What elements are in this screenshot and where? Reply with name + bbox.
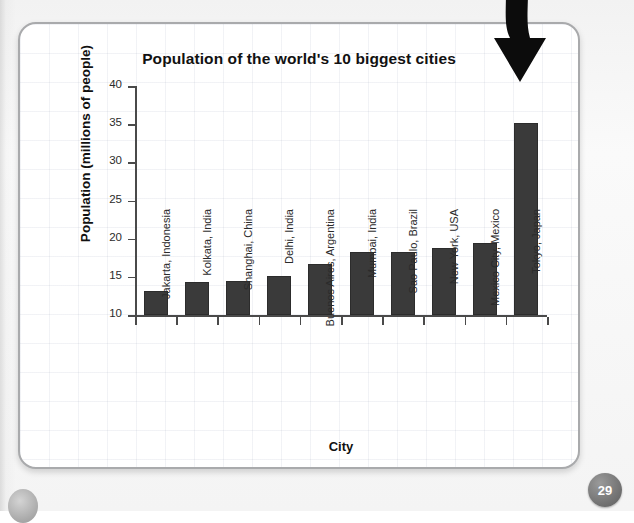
x-axis-tick-label: Delhi, India [283, 209, 295, 329]
y-axis-tick-label: 25 [109, 193, 122, 205]
x-axis-tick-mark [341, 317, 343, 325]
y-axis-tick-label: 15 [109, 269, 122, 281]
x-axis-tick-label: Kolkata, India [201, 209, 213, 329]
y-axis-tick-label: 40 [109, 78, 122, 90]
x-axis-tick-label: Buenos Aires, Argentina [324, 209, 336, 329]
plot-area [135, 86, 547, 315]
y-axis-tick-mark [128, 315, 135, 317]
x-axis-tick-label: New York, USA [448, 209, 460, 329]
x-axis-tick-label: Jakarta, Indonesia [160, 209, 172, 329]
x-axis-tick-label: Mumbai, India [366, 209, 378, 329]
y-axis-tick-label: 30 [109, 154, 122, 166]
y-axis-tick-mark [128, 86, 135, 88]
x-axis-tick-mark [423, 317, 425, 325]
x-axis-tick-label: Tokyo, Japan [530, 209, 542, 329]
x-axis-tick-mark [259, 317, 261, 325]
y-axis-tick-label: 20 [109, 231, 122, 243]
x-axis-tick-mark [217, 317, 219, 325]
y-axis-tick-mark [128, 201, 135, 203]
x-axis-tick-mark [176, 317, 178, 325]
corner-decoration [8, 489, 38, 523]
chart-title: Population of the world's 10 biggest cit… [20, 50, 578, 68]
x-axis-title: City [135, 439, 547, 454]
y-axis-tick-mark [128, 239, 135, 241]
x-axis-tick-label: Shanghai, China [242, 209, 254, 329]
page-number-badge: 29 [588, 473, 622, 507]
x-axis-tick-mark [382, 317, 384, 325]
x-axis-tick-mark [465, 317, 467, 325]
chart-card: Population of the world's 10 biggest cit… [18, 22, 580, 469]
x-axis-tick-mark [547, 317, 549, 325]
y-axis-tick-mark [128, 277, 135, 279]
y-axis-tick-label: 10 [109, 307, 122, 319]
x-axis-tick-mark [135, 317, 137, 325]
x-axis-tick-mark [506, 317, 508, 325]
y-axis-tick-mark [128, 124, 135, 126]
y-axis-title: Population (millions of people) [78, 29, 93, 259]
y-axis-tick-mark [128, 162, 135, 164]
x-axis-tick-label: Mexico City, Mexico [489, 209, 501, 329]
x-axis-tick-label: Sao Paulo, Brazil [407, 209, 419, 329]
y-axis-tick-label: 35 [109, 116, 122, 128]
x-axis-tick-mark [300, 317, 302, 325]
